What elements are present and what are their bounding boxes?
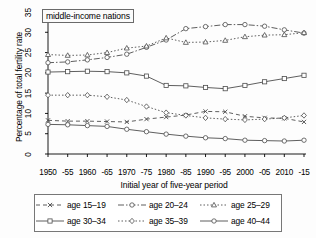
- x-tick-1980: 1980: [157, 168, 174, 177]
- y-tick-10: 10: [24, 105, 33, 121]
- x-tick-1950: 1950: [39, 168, 56, 177]
- y-tick-35: 35: [24, 4, 33, 20]
- legend-label-age-35-39: age 35–39: [147, 216, 188, 226]
- x-tick-labels: 1950-551960-651970-751980-851990-952000-…: [38, 8, 310, 166]
- y-tick-15: 15: [24, 85, 33, 101]
- chart-legend: age 15–19 age 20–24 age 25–29 age 30–34 …: [34, 194, 282, 232]
- x-tick-neg65: -65: [101, 168, 112, 177]
- x-tick-neg95: -95: [220, 168, 231, 177]
- legend-entry-age-25-29: age 25–29: [199, 197, 281, 213]
- legend-label-age-15-19: age 15–19: [65, 200, 106, 210]
- legend-entry-age-20-24: age 20–24: [117, 197, 199, 213]
- y-tick-5: 5: [24, 126, 33, 142]
- x-axis-title: Initial year of five-year period: [38, 180, 310, 190]
- legend-key-age-15-19: [35, 199, 65, 211]
- x-tick-neg75: -75: [141, 168, 152, 177]
- x-tick-2010: 2010: [276, 168, 293, 177]
- x-tick-1970: 1970: [118, 168, 135, 177]
- legend-row: age 30–34 age 35–39 age 40–44: [35, 213, 281, 229]
- legend-key-age-20-24: [117, 199, 147, 211]
- legend-label-age-40-44: age 40–44: [229, 216, 270, 226]
- legend-entry-age-35-39: age 35–39: [117, 213, 199, 229]
- legend-label-age-25-29: age 25–29: [229, 200, 270, 210]
- x-tick-1990: 1990: [197, 168, 214, 177]
- x-tick-neg55: -55: [62, 168, 73, 177]
- legend-row: age 15–19 age 20–24 age 25–29: [35, 197, 281, 213]
- y-tick-30: 30: [24, 24, 33, 40]
- legend-key-age-35-39: [117, 215, 147, 227]
- x-tick-1960: 1960: [79, 168, 96, 177]
- y-tick-25: 25: [24, 45, 33, 61]
- legend-key-age-25-29: [199, 199, 229, 211]
- y-tick-20: 20: [24, 65, 33, 81]
- legend-key-age-40-44: [199, 215, 229, 227]
- legend-label-age-30-34: age 30–34: [65, 216, 106, 226]
- y-tick-0: 0: [24, 146, 33, 162]
- legend-entry-age-40-44: age 40–44: [199, 213, 281, 229]
- x-tick-neg85: -85: [180, 168, 191, 177]
- legend-key-age-30-34: [35, 215, 65, 227]
- legend-entry-age-30-34: age 30–34: [35, 213, 117, 229]
- legend-entry-age-15-19: age 15–19: [35, 197, 117, 213]
- x-tick-neg05: -05: [259, 168, 270, 177]
- chart-figure: middle-income nations Percentage of tota…: [0, 0, 316, 238]
- x-tick-neg15: -15: [298, 168, 309, 177]
- legend-label-age-20-24: age 20–24: [147, 200, 188, 210]
- x-tick-2000: 2000: [236, 168, 253, 177]
